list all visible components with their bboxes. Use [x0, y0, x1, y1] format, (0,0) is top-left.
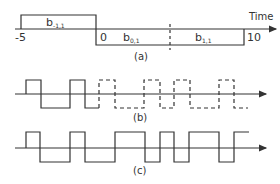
pulse-subscript: -1,1 [53, 22, 65, 29]
axis-label-time: Time [249, 12, 273, 22]
waveform-c [26, 132, 249, 162]
tick-label-minus5: -5 [15, 32, 26, 43]
caption-a: (a) [134, 52, 148, 62]
pulse-name: b [46, 16, 53, 29]
panel-b [15, 80, 266, 108]
caption-b: (b) [133, 113, 147, 123]
pulse-name: b [195, 31, 202, 44]
waveform-diagram [0, 0, 280, 184]
tick-label-0: 0 [100, 32, 107, 43]
tick-label-10: 10 [247, 32, 261, 43]
pulse-label-b-1-1: b1,1 [195, 32, 212, 44]
panel-c [15, 132, 266, 162]
pulse-label-b-0-1: b0,1 [123, 32, 140, 44]
pulse-subscript: 0,1 [130, 37, 140, 44]
pulse-subscript: 1,1 [202, 37, 212, 44]
pulse-label-b-minus1-1: b-1,1 [46, 17, 65, 29]
pulse-name: b [123, 31, 130, 44]
caption-c: (c) [133, 166, 146, 176]
